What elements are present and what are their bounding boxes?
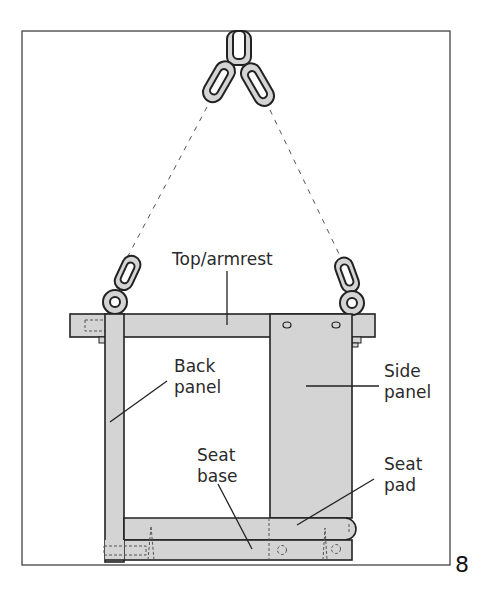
- seat-pad: [124, 518, 356, 540]
- label-back-panel-line2: panel: [174, 377, 221, 397]
- label-top-armrest: Top/armrest: [171, 249, 273, 269]
- chair-lifting-diagram: Top/armrest Back panel Side panel Seat b…: [0, 0, 477, 594]
- label-seat-base-line2: base: [197, 466, 238, 486]
- side-panel: [270, 314, 352, 518]
- left-lifting-chain-icon: [103, 253, 143, 314]
- label-seat-pad-line1: Seat: [384, 454, 423, 474]
- label-side-panel-line2: panel: [384, 382, 431, 402]
- figure-number: 8: [455, 552, 469, 577]
- label-back-panel-line1: Back: [174, 356, 215, 376]
- label-seat-pad-line2: pad: [384, 475, 416, 495]
- seat-base: [124, 540, 352, 560]
- left-sling-dashed: [128, 107, 207, 256]
- back-panel: [105, 314, 124, 562]
- right-sling-dashed: [270, 110, 340, 256]
- label-side-panel-line1: Side: [384, 361, 421, 381]
- top-chain-icon: [199, 31, 277, 110]
- label-seat-base-line1: Seat: [197, 445, 236, 465]
- right-lifting-chain-icon: [332, 255, 364, 315]
